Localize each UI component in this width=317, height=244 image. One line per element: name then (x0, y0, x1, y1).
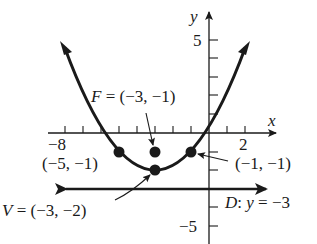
vertex-leader-arrow (115, 175, 150, 200)
x-axis (48, 126, 276, 133)
curve-arrow-left (60, 41, 72, 55)
y-tick-label-5: 5 (193, 31, 202, 50)
right-point-leader-arrow (198, 154, 228, 161)
right-latus-point (186, 147, 197, 158)
left-point-label: (−5, −1) (42, 154, 98, 173)
right-point-label: (−1, −1) (235, 154, 291, 173)
focus-label: F = (−3, −1) (90, 87, 175, 106)
curve-arrow-right (238, 41, 250, 55)
x-axis-label: x (267, 111, 276, 130)
directrix-label: D: y = −3 (224, 193, 290, 212)
vertex-label: V = (−3, −2) (2, 201, 86, 220)
x-tick-label-neg8: −8 (48, 135, 66, 154)
vertex-point (150, 165, 161, 176)
left-latus-point (114, 147, 125, 158)
focus-leader-arrow (146, 113, 153, 145)
y-axis-label: y (188, 7, 198, 26)
focus-point (150, 147, 161, 158)
y-axis (209, 12, 218, 244)
x-tick-label-2: 2 (239, 135, 248, 154)
y-tick-label-neg5: −5 (179, 217, 197, 236)
parabola-figure: y x 5 −5 −8 2 F = (−3, −1) (−5, −1) (−1,… (0, 0, 317, 244)
